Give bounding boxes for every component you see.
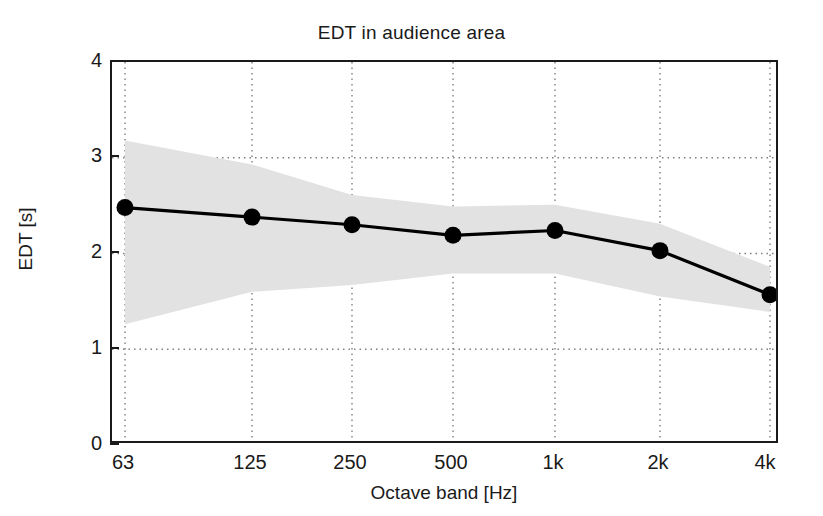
data-point-125 <box>244 209 261 226</box>
data-point-250 <box>344 216 361 233</box>
x-tick-label-63: 63 <box>83 451 163 473</box>
x-tick-label-125: 125 <box>210 451 290 473</box>
y-tick-mark-4 <box>110 60 119 62</box>
x-tick-label-500: 500 <box>411 451 491 473</box>
x-tick-label-4k: 4k <box>725 451 805 473</box>
data-point-63 <box>117 199 134 216</box>
chart-title: EDT in audience area <box>0 22 823 44</box>
x-tick-label-2k: 2k <box>618 451 698 473</box>
data-point-1k <box>547 222 564 239</box>
y-axis-label: EDT [s] <box>15 169 37 309</box>
data-point-4k <box>762 286 779 303</box>
y-tick-mark-3 <box>110 155 119 157</box>
x-tick-label-250: 250 <box>310 451 390 473</box>
y-axis-tick-labels: 0 1 2 3 4 <box>58 0 102 516</box>
y-tick-label-1: 1 <box>62 337 102 357</box>
y-tick-label-2: 2 <box>62 241 102 261</box>
y-tick-label-3: 3 <box>62 145 102 165</box>
y-tick-mark-0 <box>110 443 119 445</box>
data-point-500 <box>445 227 462 244</box>
x-tick-label-1k: 1k <box>513 451 593 473</box>
y-tick-label-4: 4 <box>62 50 102 70</box>
data-point-2k <box>652 242 669 259</box>
y-tick-mark-1 <box>110 347 119 349</box>
plot-canvas <box>112 62 778 443</box>
plot-area <box>110 60 778 443</box>
y-tick-mark-2 <box>110 251 119 253</box>
y-tick-label-0: 0 <box>62 433 102 453</box>
x-axis-label: Octave band [Hz] <box>110 482 778 504</box>
chart-figure: EDT in audience area EDT [s] 0 1 2 3 4 6… <box>0 0 823 516</box>
x-axis-tick-labels: 63 125 250 500 1k 2k 4k <box>0 451 823 481</box>
